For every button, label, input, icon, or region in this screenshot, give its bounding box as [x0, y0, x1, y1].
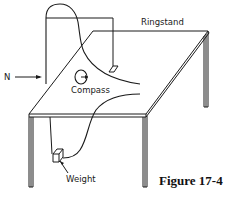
weight-front-face	[53, 154, 59, 162]
table-right-edge	[146, 31, 209, 117]
north-arrow	[15, 75, 42, 79]
figure-caption: Figure 17-4	[159, 173, 223, 188]
wire-upper-loop	[46, 4, 140, 84]
north-label: N	[4, 72, 10, 82]
current-carrying-wire	[46, 4, 140, 158]
table-top	[29, 31, 208, 114]
weight-string	[50, 117, 52, 154]
weight-top-face	[53, 149, 63, 154]
ringstand-label: Ringstand	[141, 17, 184, 27]
weight	[50, 117, 68, 173]
weight-label: Weight	[66, 174, 96, 184]
ringstand-card	[109, 66, 118, 72]
wire-lower-segment	[63, 94, 140, 158]
table	[29, 31, 209, 187]
north-arrowhead-icon	[36, 75, 42, 79]
diagram-canvas: N Compass Ringstand Weight Figure 17-4	[0, 0, 233, 199]
compass	[75, 70, 88, 84]
weight-pointer-arrowhead	[60, 161, 64, 165]
compass-label: Compass	[71, 85, 110, 95]
